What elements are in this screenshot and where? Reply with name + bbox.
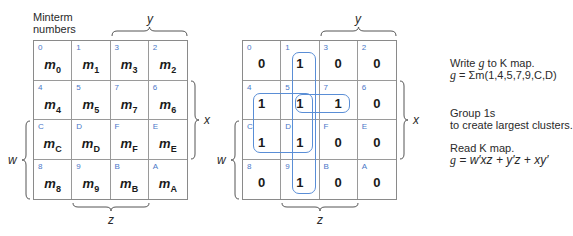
- kmap-cell: 9m9: [72, 160, 110, 200]
- minterm-subscript: 8: [56, 183, 61, 193]
- minterm-symbol: m: [121, 57, 133, 72]
- cell-index: 2: [153, 43, 157, 52]
- kmap-cell: 7m7: [111, 81, 149, 121]
- minterm-label: m4: [34, 97, 71, 115]
- minterm-label: m9: [72, 176, 109, 194]
- minterm-subscript: F: [132, 144, 138, 154]
- minterm-subscript: A: [170, 183, 177, 193]
- kmap-cell: 8m8: [34, 160, 72, 200]
- cell-index: 8: [38, 162, 42, 171]
- cell-index: 0: [38, 43, 42, 52]
- minterm-symbol: m: [82, 136, 94, 151]
- step2-line2: to create largest clusters.: [450, 119, 573, 131]
- kmap-cell: 1m1: [72, 41, 110, 81]
- minterm-subscript: 0: [56, 65, 61, 75]
- cell-index: A: [362, 162, 367, 171]
- w-brace-left: [21, 120, 31, 200]
- minterm-label: mB: [111, 176, 148, 194]
- cell-value: 0: [243, 56, 280, 71]
- cell-value: 0: [320, 135, 357, 150]
- cell-index: 1: [76, 43, 80, 52]
- minterm-label: m7: [111, 97, 148, 115]
- minterm-subscript: 5: [94, 104, 99, 114]
- kmap-cell: 2m2: [149, 41, 187, 81]
- cell-index: D: [76, 122, 82, 131]
- cell-index: F: [115, 122, 120, 131]
- step3-line2: g = w′xz + y′z + xy′: [450, 154, 548, 166]
- w-label-left: w: [8, 153, 17, 167]
- minterm-label: m8: [34, 176, 71, 194]
- x-label-right: x: [413, 113, 419, 127]
- cell-value: 0: [358, 135, 396, 150]
- minterm-subscript: E: [171, 144, 177, 154]
- cell-index: 7: [115, 83, 119, 92]
- minterm-label: m2: [149, 57, 187, 75]
- kmap-cell: FmF: [111, 120, 149, 160]
- step2-line1: Group 1s: [450, 107, 573, 119]
- cell-index: B: [324, 162, 329, 171]
- x-brace-right: [400, 80, 410, 160]
- kmap-cell: BmB: [111, 160, 149, 200]
- y-label-right: y: [355, 12, 361, 26]
- minterm-label: m0: [34, 57, 71, 75]
- cell-index: A: [153, 162, 158, 171]
- cell-value: 0: [243, 175, 280, 190]
- minterm-symbol: m: [44, 136, 56, 151]
- cell-value: 0: [358, 96, 396, 111]
- cell-index: C: [247, 122, 253, 131]
- kmap-cell: 60: [358, 81, 396, 121]
- kmap-cell: AmA: [149, 160, 187, 200]
- kmap-cell: 4m4: [34, 81, 72, 121]
- minterm-label: mD: [72, 136, 109, 154]
- minterm-symbol: m: [44, 57, 56, 72]
- step-read-kmap: Read K map. g = w′xz + y′z + xy′: [450, 142, 548, 166]
- step-write-kmap: Write g to K map. g = Σm(1,4,5,7,9,C,D): [450, 57, 557, 81]
- w-brace-right: [230, 120, 240, 200]
- kmap-cell: 20: [358, 41, 396, 81]
- x-brace-left: [191, 80, 201, 160]
- kmap-cell: B0: [320, 160, 358, 200]
- cell-index: 6: [362, 83, 366, 92]
- z-label-right: z: [317, 213, 323, 227]
- x-label-left: x: [204, 113, 210, 127]
- y-label-left: y: [147, 12, 153, 26]
- kmap-cell: 6m6: [149, 81, 187, 121]
- z-label-left: z: [108, 213, 114, 227]
- kmap-cell: 0m0: [34, 41, 72, 81]
- step-group: Group 1s to create largest clusters.: [450, 107, 573, 131]
- kmap-cell: A0: [358, 160, 396, 200]
- cell-index: 4: [38, 83, 42, 92]
- cell-index: E: [362, 122, 367, 131]
- minterm-subscript: 7: [132, 104, 137, 114]
- minterm-label: mF: [111, 136, 148, 154]
- kmap-cell: CmC: [34, 120, 72, 160]
- y-brace-left: [111, 27, 188, 37]
- minterm-subscript: D: [93, 144, 100, 154]
- minterm-label: m3: [111, 57, 148, 75]
- minterm-subscript: B: [132, 183, 139, 193]
- kmap-cell: 80: [243, 160, 281, 200]
- minterm-subscript: 6: [171, 104, 176, 114]
- step1-line2: g = Σm(1,4,5,7,9,C,D): [450, 69, 557, 81]
- minterm-symbol: m: [44, 176, 56, 191]
- cell-index: B: [115, 162, 120, 171]
- minterm-symbol: m: [83, 57, 95, 72]
- cell-index: 4: [247, 83, 251, 92]
- minterm-caption: Minterm numbers: [33, 11, 76, 35]
- minterm-symbol: m: [160, 57, 172, 72]
- minterm-label: m1: [72, 57, 109, 75]
- cell-index: 2: [362, 43, 366, 52]
- cell-index: C: [38, 122, 44, 131]
- minterm-symbol: m: [121, 97, 133, 112]
- minterm-label: m6: [149, 97, 187, 115]
- minterm-symbol: m: [121, 136, 133, 151]
- kmap-cell: 00: [243, 41, 281, 81]
- step1-line1: Write g to K map.: [450, 57, 557, 69]
- minterm-subscript: 9: [94, 183, 99, 193]
- cell-value: 0: [320, 175, 357, 190]
- kmap-cell: 3m3: [111, 41, 149, 81]
- kmap-cell: EmE: [149, 120, 187, 160]
- cell-index: 1: [285, 43, 289, 52]
- minterm-label: m5: [72, 97, 109, 115]
- cell-index: 0: [247, 43, 251, 52]
